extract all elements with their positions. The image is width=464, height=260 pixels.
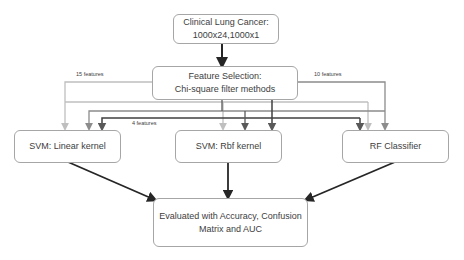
node-input-line1: Clinical Lung Cancer: (183, 16, 269, 29)
node-clinical-lung-cancer: Clinical Lung Cancer: 1000x24,1000x1 (173, 14, 279, 44)
node-evaluation: Evaluated with Accuracy, Confusion Matri… (153, 198, 308, 247)
node-svm-rbf: SVM: Rbf kernel (175, 130, 282, 163)
node-eval-line1: Evaluated with Accuracy, Confusion (159, 210, 301, 223)
label-15-features: 15 features (76, 71, 104, 77)
node-feature-selection: Feature Selection: Chi-square filter met… (152, 66, 298, 100)
node-fs-line1: Feature Selection: (175, 70, 276, 83)
node-fs-line2: Chi-square filter methods (175, 83, 276, 96)
node-svm-linear-label: SVM: Linear kernel (29, 140, 106, 153)
node-rf-classifier: RF Classifier (342, 130, 449, 163)
node-rf-label: RF Classifier (370, 140, 422, 153)
node-svm-linear: SVM: Linear kernel (14, 130, 121, 163)
label-4-features: 4 features (132, 120, 156, 126)
node-svm-rbf-label: SVM: Rbf kernel (196, 140, 262, 153)
node-eval-line2: Matrix and AUC (159, 223, 301, 236)
node-input-line2: 1000x24,1000x1 (183, 29, 269, 42)
label-10-features: 10 features (314, 71, 342, 77)
